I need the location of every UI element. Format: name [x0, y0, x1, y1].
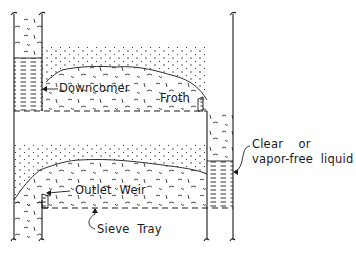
- clear-liquid-arrow-icon: [233, 169, 238, 175]
- label-outlet-weir: Outlet Weir: [75, 183, 146, 197]
- sieve-tray-diagram: [0, 0, 356, 257]
- downcomer-left: [14, 14, 42, 111]
- clear-liquid-leader: [234, 146, 250, 172]
- label-clear-liquid-line1: Clear or: [252, 137, 311, 151]
- outlet-weir-lower: [42, 194, 48, 208]
- froth-left-lower: [14, 200, 42, 240]
- label-downcomer: Downcomer: [59, 81, 130, 95]
- label-froth: Froth: [160, 91, 190, 105]
- downcomer-right: [207, 111, 233, 208]
- outlet-weir-upper: [198, 97, 203, 111]
- label-clear-liquid-line2: vapor-free liquid: [252, 152, 353, 166]
- label-sieve-tray: Sieve Tray: [97, 222, 162, 236]
- sieve-tray-arrow-icon: [92, 208, 98, 213]
